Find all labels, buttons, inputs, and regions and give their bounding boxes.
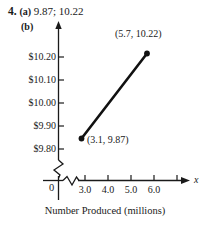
y-axis-ticks: [59, 57, 65, 149]
y-tick-label-3: $10.00: [10, 97, 56, 108]
figure-page: 4. (a) 9.87; 10.22 (b): [0, 0, 210, 231]
scatter-line-plot: [0, 0, 210, 231]
x-tick-label-4: 6.0: [139, 184, 169, 195]
x-axis-variable-label: x: [194, 174, 198, 185]
data-point-high: [144, 51, 150, 57]
x-axis-ticks: [85, 175, 177, 181]
data-point-low: [79, 136, 85, 142]
y-tick-label-2: $10.10: [10, 74, 56, 85]
x-axis-title: Number Produced (millions): [0, 205, 210, 217]
y-tick-label-1: $10.20: [10, 51, 56, 62]
y-axis: [54, 21, 63, 200]
data-point-label-high: (5.7, 10.22): [115, 28, 162, 39]
data-line-segment: [82, 54, 148, 139]
y-tick-label-5: $9.80: [10, 143, 56, 154]
y-tick-label-4: $9.90: [10, 120, 56, 131]
origin-label: 0: [49, 182, 54, 193]
data-point-label-low: (3.1, 9.87): [87, 134, 129, 145]
